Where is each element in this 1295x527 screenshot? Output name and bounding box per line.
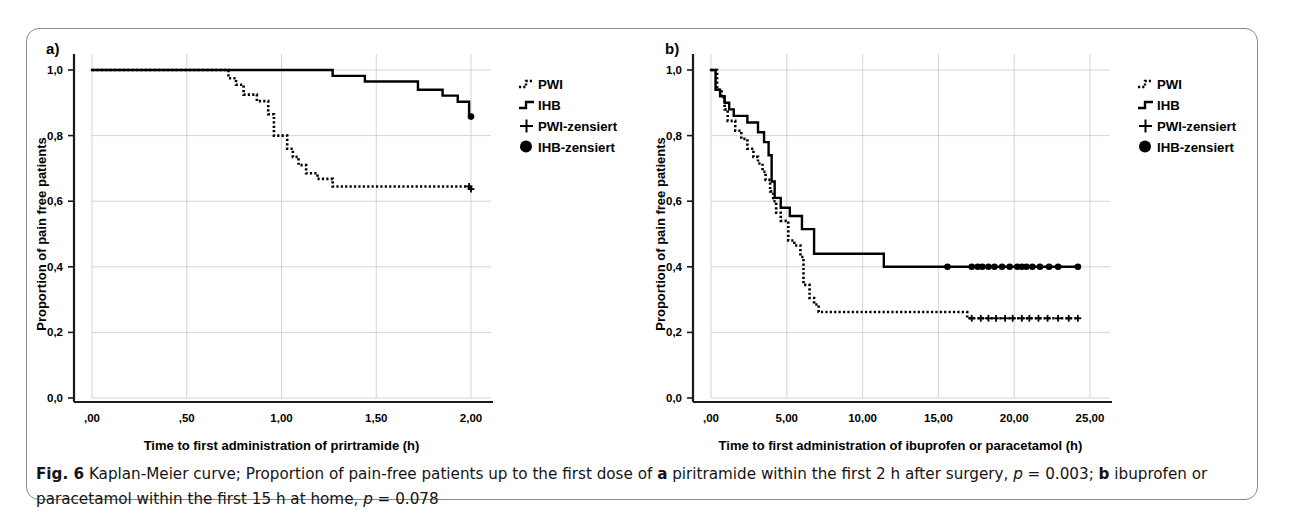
censor-marker-plus bbox=[977, 315, 984, 322]
legend-item-pwi_cens: PWI-zensiert bbox=[520, 119, 618, 134]
curve-pwi-dotted bbox=[711, 70, 1078, 318]
censor-marker-plus bbox=[1026, 315, 1033, 322]
y-tick-label: 0,4 bbox=[47, 261, 64, 273]
legend-label: PWI-zensiert bbox=[538, 119, 618, 134]
censor-marker-circle bbox=[985, 264, 992, 271]
censor-marker-circle bbox=[999, 264, 1006, 271]
censor-marker-plus bbox=[1018, 315, 1025, 322]
figure-caption: Fig. 6 Kaplan-Meier curve; Proportion of… bbox=[36, 462, 1268, 512]
legend-item-pwi_cens: PWI-zensiert bbox=[1139, 119, 1237, 134]
panel-a: a) 0,00,20,40,60,81,0,00,501,001,502,00T… bbox=[26, 28, 642, 468]
legend-item-pwi: PWI bbox=[519, 77, 563, 92]
x-tick-label: 15,00 bbox=[924, 412, 953, 424]
figure-root: a) 0,00,20,40,60,81,0,00,501,001,502,00T… bbox=[0, 0, 1295, 527]
censor-marker-plus bbox=[985, 315, 992, 322]
censor-marker-circle bbox=[979, 264, 986, 271]
caption-bold-b: b bbox=[1099, 465, 1110, 483]
censor-marker-plus bbox=[968, 315, 975, 322]
legend-filled-circle-icon bbox=[520, 141, 532, 153]
legend-solid-step-icon bbox=[519, 102, 534, 108]
x-tick-label: 2,00 bbox=[460, 412, 482, 424]
legend-filled-circle-icon bbox=[1139, 141, 1151, 153]
y-tick-label: 0,2 bbox=[666, 326, 682, 338]
legend-dotted-step-icon bbox=[1138, 81, 1153, 87]
panel-b-chart: 0,00,20,40,60,81,0,005,0010,0015,0020,00… bbox=[645, 28, 1261, 468]
legend-label: IHB-zensiert bbox=[538, 140, 616, 155]
censor-marker-plus bbox=[1035, 315, 1042, 322]
censor-marker-circle bbox=[468, 113, 475, 120]
legend-item-ihb_cens: IHB-zensiert bbox=[520, 140, 616, 155]
y-tick-label: 0,2 bbox=[47, 326, 63, 338]
x-axis-title: Time to first administration of prirtram… bbox=[144, 438, 420, 453]
x-tick-label: 1,50 bbox=[365, 412, 387, 424]
caption-bold-a: a bbox=[657, 465, 667, 483]
censor-marker-plus bbox=[993, 315, 1000, 322]
legend-label: PWI-zensiert bbox=[1157, 119, 1237, 134]
curve-ihb-solid bbox=[711, 70, 1078, 267]
censor-marker-circle bbox=[1023, 264, 1030, 271]
censor-marker-plus bbox=[1002, 315, 1009, 322]
y-tick-label: 0,6 bbox=[666, 195, 682, 207]
censor-marker-circle bbox=[1006, 264, 1013, 271]
caption-text-2: piritramide within the first 2 h after s… bbox=[667, 465, 1013, 483]
caption-figure-number: Fig. 6 bbox=[36, 465, 84, 483]
caption-p-value-1-symbol: p bbox=[1013, 465, 1023, 483]
censor-marker-plus bbox=[1065, 315, 1072, 322]
legend-label: IHB bbox=[538, 98, 561, 113]
caption-p-value-2-symbol: p bbox=[363, 490, 373, 508]
legend-dotted-step-icon bbox=[519, 81, 534, 87]
censor-marker-plus bbox=[1055, 315, 1062, 322]
legend-solid-step-icon bbox=[1138, 102, 1153, 108]
legend-label: PWI bbox=[1157, 77, 1182, 92]
censor-marker-plus bbox=[1009, 315, 1016, 322]
y-tick-label: 0,8 bbox=[666, 130, 683, 142]
caption-text-1: Kaplan-Meier curve; Proportion of pain-f… bbox=[84, 465, 657, 483]
legend-item-ihb_cens: IHB-zensiert bbox=[1139, 140, 1235, 155]
x-tick-label: ,00 bbox=[703, 412, 719, 424]
legend-item-ihb: IHB bbox=[519, 98, 561, 113]
censor-marker-circle bbox=[1075, 264, 1082, 271]
legend-label: PWI bbox=[538, 77, 563, 92]
y-tick-label: 0,8 bbox=[47, 130, 64, 142]
legend-label: IHB-zensiert bbox=[1157, 140, 1235, 155]
x-tick-label: 10,00 bbox=[848, 412, 877, 424]
legend-item-pwi: PWI bbox=[1138, 77, 1182, 92]
censor-marker-circle bbox=[1029, 264, 1036, 271]
y-tick-label: 0,0 bbox=[47, 392, 63, 404]
censor-marker-circle bbox=[1037, 264, 1044, 271]
x-tick-label: 20,00 bbox=[1000, 412, 1029, 424]
x-tick-label: 25,00 bbox=[1076, 412, 1105, 424]
censor-marker-circle bbox=[1055, 264, 1062, 271]
y-axis-title: Proportion of pain free patients bbox=[34, 137, 49, 331]
y-tick-label: 1,0 bbox=[666, 64, 682, 76]
panel-b: b) 0,00,20,40,60,81,0,005,0010,0015,0020… bbox=[645, 28, 1261, 468]
x-tick-label: 5,00 bbox=[776, 412, 798, 424]
x-axis-title: Time to first administration of ibuprofe… bbox=[719, 438, 1083, 453]
panel-a-chart: 0,00,20,40,60,81,0,00,501,001,502,00Time… bbox=[26, 28, 642, 468]
legend-item-ihb: IHB bbox=[1138, 98, 1180, 113]
censor-marker-plus bbox=[1044, 315, 1051, 322]
legend-label: IHB bbox=[1157, 98, 1180, 113]
x-tick-label: ,00 bbox=[84, 412, 100, 424]
y-axis-title: Proportion of pain free patients bbox=[653, 137, 668, 331]
censor-marker-circle bbox=[968, 264, 975, 271]
censor-marker-circle bbox=[991, 264, 998, 271]
y-tick-label: 0,6 bbox=[47, 195, 63, 207]
censor-marker-plus bbox=[1074, 315, 1081, 322]
caption-text-3: = 0.003; bbox=[1023, 465, 1099, 483]
y-tick-label: 0,0 bbox=[666, 392, 682, 404]
x-tick-label: 1,00 bbox=[270, 412, 292, 424]
x-tick-label: ,50 bbox=[179, 412, 195, 424]
censor-marker-circle bbox=[1046, 264, 1053, 271]
y-tick-label: 1,0 bbox=[47, 64, 63, 76]
y-tick-label: 0,4 bbox=[666, 261, 683, 273]
censor-marker-circle bbox=[944, 264, 951, 271]
curve-ihb-solid bbox=[92, 70, 469, 115]
caption-text-5: = 0.078 bbox=[373, 490, 439, 508]
